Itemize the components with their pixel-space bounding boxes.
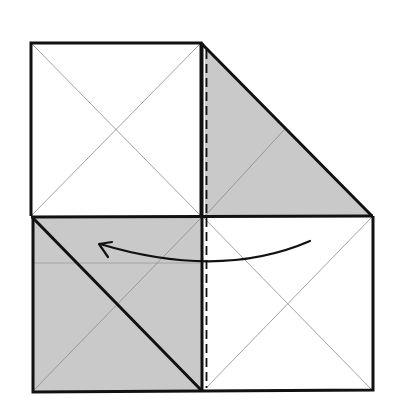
- origami-fold-diagram: [0, 0, 397, 410]
